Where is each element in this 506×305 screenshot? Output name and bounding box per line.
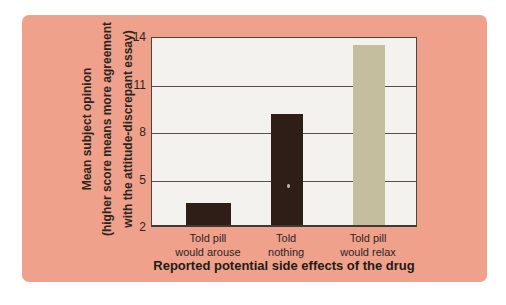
bar-2	[271, 114, 303, 225]
figure-screenshot: Mean subject opinion (higher score means…	[0, 0, 506, 305]
y-tick-label: 8	[116, 123, 146, 141]
print-artifact-dot	[287, 184, 290, 188]
x-category-label: Told pill would relax	[313, 232, 423, 259]
y-tick-label: 14	[116, 28, 146, 46]
plot-area	[151, 37, 417, 227]
y-tick-label: 11	[116, 76, 146, 94]
x-axis-title: Reported potential side effects of the d…	[134, 258, 434, 273]
figure-panel: Mean subject opinion (higher score means…	[22, 15, 487, 282]
y-tick-label: 5	[116, 171, 146, 189]
bar-3	[353, 45, 385, 226]
y-tick-label: 2	[116, 218, 146, 236]
bar-1	[186, 203, 231, 225]
